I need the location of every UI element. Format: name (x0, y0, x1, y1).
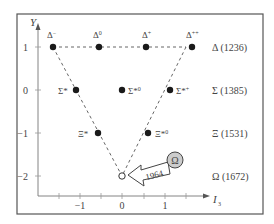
svg-text:Ξ*0: Ξ*0 (155, 129, 168, 139)
x-axis-arrow-icon (203, 194, 210, 199)
svg-text:Σ*+: Σ*+ (176, 86, 190, 96)
x-axis-label-sub: 3 (218, 201, 221, 207)
y-tick-neg1: −1 (17, 128, 28, 139)
svg-text:Δ−: Δ− (47, 30, 57, 40)
particle-omega-minus (119, 173, 125, 179)
multiplet-sigma-label: Σ (1385) (212, 85, 247, 97)
svg-text:Δ++: Δ++ (186, 30, 199, 40)
svg-text:Σ*0: Σ*0 (128, 86, 141, 96)
particle-delta-plusplus: Δ++ (186, 30, 199, 50)
multiplet-delta-label: Δ (1236) (212, 42, 247, 54)
multiplet-xi-label: Ξ (1531) (212, 128, 248, 140)
particle-delta-zero: Δ0 (93, 30, 102, 50)
svg-text:Ξ*: Ξ* (78, 129, 89, 139)
multiplet-omega-label: Ω (1672) (212, 171, 249, 183)
particle-sigma-star-plus: Σ*+ (167, 86, 190, 96)
particle-xi-star-minus: Ξ* (78, 129, 101, 139)
particle-sigma-star-zero: Σ*0 (119, 86, 141, 96)
particle-sigma-star-minus: Σ* (58, 86, 79, 96)
svg-text:Σ*: Σ* (58, 86, 68, 96)
y-axis-label: Y (30, 16, 38, 28)
decuplet-triangle (53, 47, 186, 176)
svg-text:Δ0: Δ0 (93, 30, 102, 40)
x-tick-1: 1 (163, 200, 168, 211)
y-tick-1: 1 (23, 42, 28, 53)
decuplet-diagram: Y I 3 1 0 −1 −2 −1 0 1 Δ− Δ0 Δ+ (0, 0, 274, 224)
y-axis-arrow-icon (36, 23, 41, 30)
particle-xi-star-zero: Ξ*0 (145, 129, 168, 139)
x-tick-0: 0 (120, 200, 125, 211)
svg-text:Ω: Ω (171, 155, 178, 166)
y-tick-neg2: −2 (17, 171, 28, 182)
particle-delta-minus: Δ− (47, 30, 57, 50)
discovery-callout: 1964 Ω (128, 152, 183, 186)
svg-text:Δ+: Δ+ (142, 30, 152, 40)
y-tick-0: 0 (23, 85, 28, 96)
x-tick-neg1: −1 (75, 200, 86, 211)
